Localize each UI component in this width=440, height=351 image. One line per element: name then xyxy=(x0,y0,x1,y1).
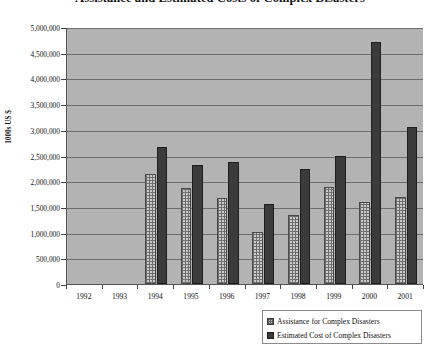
bar-assistance-2000 xyxy=(359,202,370,284)
legend-item-assistance: Assistance for Complex Disasters xyxy=(267,314,421,328)
x-axis-tick-mark xyxy=(137,285,138,289)
x-axis-tick-label: 1993 xyxy=(112,292,127,301)
gridline xyxy=(67,54,423,55)
y-axis-tick-label: 3,000,000 xyxy=(30,126,60,135)
bar-cost-1997 xyxy=(264,204,275,284)
bar-assistance-1997 xyxy=(252,232,263,284)
y-axis-tick-label: 0 xyxy=(56,281,60,290)
legend-swatch-icon-cost xyxy=(267,332,274,339)
y-axis-tick-label: 2,500,000 xyxy=(30,152,60,161)
bar-cost-1998 xyxy=(300,169,311,284)
bar-assistance-2001 xyxy=(395,197,406,284)
plot-top-border xyxy=(67,28,423,29)
bar-assistance-1998 xyxy=(288,215,299,284)
bar-assistance-1995 xyxy=(181,188,192,284)
gridline xyxy=(67,182,423,183)
y-axis-tick-label: 500,000 xyxy=(36,255,60,264)
gridline xyxy=(67,79,423,80)
y-axis-tick-label: 4,000,000 xyxy=(30,75,60,84)
plot-area xyxy=(66,28,423,285)
x-axis-tick-mark xyxy=(387,285,388,289)
x-axis-tick-mark xyxy=(423,285,424,289)
x-axis-tick-label: 2000 xyxy=(362,292,377,301)
x-axis-tick-label: 1999 xyxy=(326,292,341,301)
bar-cost-1996 xyxy=(228,162,239,284)
bar-cost-1995 xyxy=(192,165,203,284)
y-axis-tick-label: 2,000,000 xyxy=(30,178,60,187)
chart-container: Assistance and Estimated Costs of Comple… xyxy=(0,0,440,351)
x-axis-tick-label: 1992 xyxy=(76,292,91,301)
bar-cost-2001 xyxy=(407,127,418,284)
x-axis-tick-mark xyxy=(209,285,210,289)
legend-label-assistance: Assistance for Complex Disasters xyxy=(277,317,380,326)
gridline xyxy=(67,105,423,106)
x-axis-tick-mark xyxy=(316,285,317,289)
bar-assistance-1999 xyxy=(324,187,335,284)
x-axis-tick-mark xyxy=(245,285,246,289)
bar-cost-2000 xyxy=(371,42,382,284)
x-axis-tick-mark xyxy=(280,285,281,289)
x-axis-tick-label: 1995 xyxy=(183,292,198,301)
y-axis-tick-label: 4,500,000 xyxy=(30,49,60,58)
x-axis-tick-mark xyxy=(352,285,353,289)
y-axis-title: 1000s US $ xyxy=(5,97,13,157)
gridline xyxy=(67,131,423,132)
legend-label-cost: Estimated Cost of Complex Disasters xyxy=(277,331,391,340)
x-axis: 1992199319941995199619971998199920002001 xyxy=(66,285,423,309)
y-axis-tick-label: 1,500,000 xyxy=(30,203,60,212)
x-axis-tick-mark xyxy=(102,285,103,289)
chart-legend: Assistance for Complex Disasters Estimat… xyxy=(262,310,422,344)
x-axis-tick-mark xyxy=(66,285,67,289)
y-axis-tick-label: 3,500,000 xyxy=(30,101,60,110)
x-axis-tick-label: 1998 xyxy=(290,292,305,301)
bar-cost-1999 xyxy=(335,156,346,285)
x-axis-tick-label: 1997 xyxy=(255,292,270,301)
legend-swatch-icon-assistance xyxy=(267,318,274,325)
x-axis-tick-mark xyxy=(173,285,174,289)
chart-title: Assistance and Estimated Costs of Comple… xyxy=(0,0,440,6)
bar-assistance-1994 xyxy=(145,174,156,285)
gridline xyxy=(67,157,423,158)
x-axis-tick-label: 1996 xyxy=(219,292,234,301)
y-axis-tick-label: 5,000,000 xyxy=(30,24,60,33)
y-axis-tick-label: 1,000,000 xyxy=(30,229,60,238)
x-axis-tick-label: 1994 xyxy=(148,292,163,301)
x-axis-tick-label: 2001 xyxy=(398,292,413,301)
legend-item-cost: Estimated Cost of Complex Disasters xyxy=(267,328,421,342)
bar-cost-1994 xyxy=(157,147,168,284)
bar-assistance-1996 xyxy=(217,198,228,284)
y-axis: 1000s US $ 0500,0001,000,0001,500,0002,0… xyxy=(0,0,66,285)
